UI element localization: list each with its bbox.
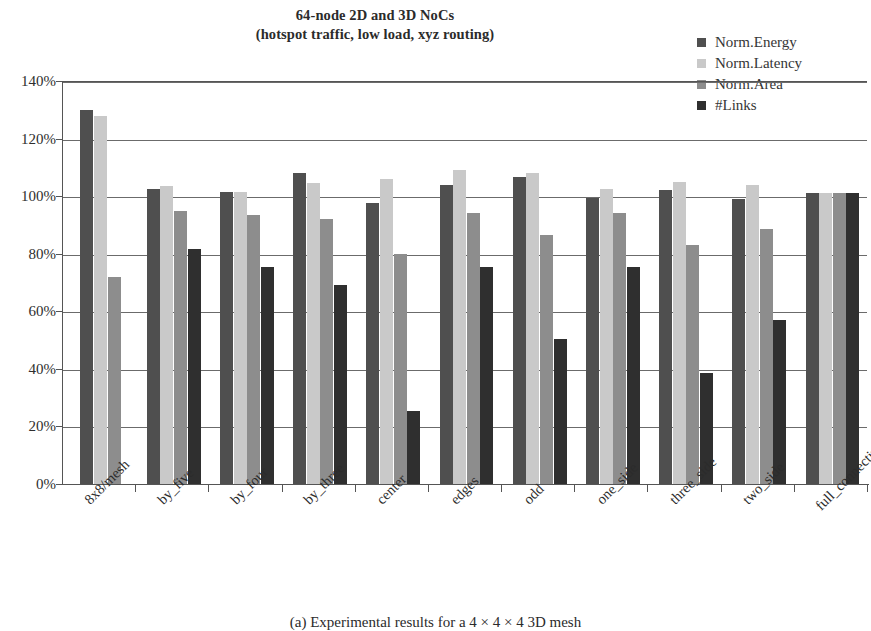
x-axis-tick-mark — [428, 484, 429, 492]
bar-group — [366, 81, 420, 484]
chart-title: 64-node 2D and 3D NoCs (hotspot traffic,… — [150, 6, 600, 44]
bar — [659, 190, 672, 484]
y-axis-tick-label: 140% — [4, 73, 56, 90]
bar — [394, 254, 407, 484]
legend-label: Norm.Latency — [715, 56, 802, 71]
legend-swatch-icon — [697, 38, 706, 47]
bar-group — [147, 81, 201, 484]
bar — [453, 170, 466, 484]
bar-group — [732, 81, 786, 484]
legend-label: Norm.Energy — [715, 35, 797, 50]
bar-group — [293, 81, 347, 484]
bar-group — [513, 81, 567, 484]
bar — [600, 189, 613, 484]
bar — [261, 267, 274, 484]
x-axis-tick-mark — [355, 484, 356, 492]
chart-title-line1: 64-node 2D and 3D NoCs — [296, 7, 455, 23]
bar — [746, 185, 759, 484]
bar-group — [220, 81, 274, 484]
bar — [80, 110, 93, 484]
bar — [526, 173, 539, 484]
bar — [732, 199, 745, 484]
y-axis: 0%20%40%60%80%100%120%140% — [0, 0, 56, 631]
bar — [540, 235, 553, 484]
bar-groups — [62, 81, 867, 484]
bar — [806, 193, 819, 484]
figure-caption: (a) Experimental results for a 4 × 4 × 4… — [0, 614, 871, 631]
bar — [513, 177, 526, 484]
bar — [613, 213, 626, 484]
bar — [220, 192, 233, 484]
bar — [627, 267, 640, 484]
bar — [147, 189, 160, 484]
legend-item-norm-energy: Norm.Energy — [697, 32, 871, 53]
bar — [160, 186, 173, 484]
figure-panel: 64-node 2D and 3D NoCs (hotspot traffic,… — [0, 0, 871, 631]
bar — [440, 185, 453, 484]
x-axis-tick-mark — [135, 484, 136, 492]
y-axis-tick-label: 0% — [4, 476, 56, 493]
bar — [554, 339, 567, 484]
bar-group — [586, 81, 640, 484]
bar — [407, 411, 420, 484]
bar — [366, 203, 379, 484]
x-axis-tick-mark — [282, 484, 283, 492]
y-axis-tick-label: 20% — [4, 418, 56, 435]
x-axis-tick-mark — [794, 484, 795, 492]
x-axis-tick-mark — [501, 484, 502, 492]
bar-group — [440, 81, 494, 484]
bar — [673, 182, 686, 484]
bar — [819, 193, 832, 484]
bar — [686, 245, 699, 484]
bar — [247, 215, 260, 484]
x-axis-tick-mark — [208, 484, 209, 492]
bar — [380, 179, 393, 484]
bar — [234, 192, 247, 484]
bar — [108, 277, 121, 484]
y-axis-tick-label: 40% — [4, 360, 56, 377]
x-axis-tick-mark — [867, 484, 868, 492]
x-axis-tick-mark — [647, 484, 648, 492]
y-axis-tick-label: 60% — [4, 303, 56, 320]
bar-group — [659, 81, 713, 484]
y-axis-tick-label: 100% — [4, 188, 56, 205]
bar — [94, 116, 107, 484]
legend-swatch-icon — [697, 59, 706, 68]
bar — [480, 267, 493, 484]
bar — [833, 193, 846, 484]
bar-group — [806, 81, 860, 484]
bar-group — [80, 81, 120, 484]
bar — [760, 229, 773, 484]
x-axis-tick-mark — [721, 484, 722, 492]
y-axis-tick-label: 120% — [4, 130, 56, 147]
bar — [320, 219, 333, 484]
bar — [846, 193, 859, 484]
bar — [174, 211, 187, 484]
chart-title-line2: (hotspot traffic, low load, xyz routing) — [150, 25, 600, 44]
bar — [586, 198, 599, 484]
bar — [307, 183, 320, 484]
y-axis-tick-label: 80% — [4, 245, 56, 262]
x-axis-tick-mark — [574, 484, 575, 492]
bar — [334, 285, 347, 484]
legend-item-norm-latency: Norm.Latency — [697, 53, 871, 74]
bar — [188, 249, 201, 484]
bar — [467, 213, 480, 484]
bar — [293, 173, 306, 484]
